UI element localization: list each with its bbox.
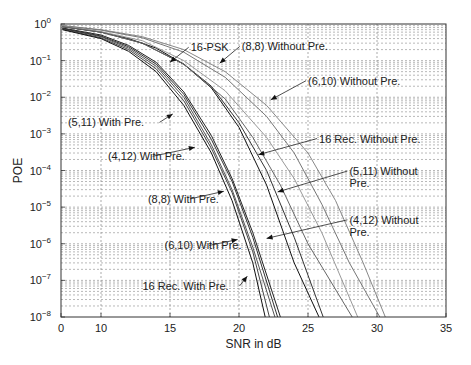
y-tick-label: 10−1	[30, 53, 52, 67]
series-line-8	[62, 28, 280, 317]
annotation-label: (8,8) Without Pre.	[242, 40, 328, 52]
annotation-label: 16-PSK	[191, 41, 230, 53]
x-tick-label: 25	[302, 322, 314, 334]
x-tick-label: 30	[371, 322, 383, 334]
series-line-4	[62, 26, 357, 317]
poe-vs-snr-chart: 16-PSK(8,8) Without Pre.(6,10) Without P…	[0, 0, 471, 365]
annotation-label: (4,12) Without	[349, 214, 418, 226]
annotation-arrowhead	[267, 235, 273, 240]
annotation-label: (4,12) With Pre.	[108, 150, 185, 162]
y-axis-ticks: 10010−110−210−310−410−510−610−710−8	[30, 16, 65, 323]
annotation-label: (8,8) With Pre.	[148, 193, 219, 205]
y-tick-label: 10−4	[30, 163, 52, 177]
y-tick-label: 10−5	[30, 199, 52, 213]
x-tick-label: 10	[95, 322, 107, 334]
annotation-label: 16 Rec. With Pre.	[142, 280, 228, 292]
series-line-3	[62, 27, 323, 317]
annotation-arrowhead	[166, 114, 172, 119]
x-tick-label: 20	[233, 322, 245, 334]
y-tick-label: 10−3	[30, 126, 52, 140]
annotation-label-line2: Pre.	[349, 226, 369, 238]
x-axis-title: SNR in dB	[225, 337, 281, 351]
y-tick-label: 10−7	[30, 272, 52, 286]
annotations: 16-PSK(8,8) Without Pre.(6,10) Without P…	[68, 40, 421, 291]
annotation-arrow-line	[278, 171, 348, 192]
annotation-arrowhead	[242, 276, 248, 282]
annotation-label: (5,11) Without	[349, 165, 417, 177]
x-axis-ticks: 0101520253035	[58, 313, 452, 334]
series-lines	[62, 26, 385, 317]
y-tick-label: 10−2	[30, 89, 52, 103]
annotation-arrow-line	[267, 220, 348, 239]
x-tick-label: 35	[440, 322, 452, 334]
annotation-label: (6,10) Without Pre.	[308, 75, 400, 87]
annotation-arrow-line	[271, 81, 306, 100]
y-tick-label: 10−8	[30, 309, 52, 323]
annotation-label: (5,11) With Pre.	[68, 116, 144, 128]
annotation-arrowhead	[278, 188, 284, 193]
series-line-5	[62, 27, 352, 317]
annotation-label: 16 Rec. Without Pre.	[319, 133, 421, 145]
y-tick-label: 10−6	[30, 236, 52, 250]
annotation-label-line2: Pre.	[349, 177, 369, 189]
x-tick-label: 15	[164, 322, 176, 334]
annotation-arrowhead	[258, 151, 264, 156]
y-axis-title: POE	[11, 158, 25, 183]
y-tick-label: 100	[34, 16, 51, 30]
annotation-label: (6,10) With Pre.	[164, 239, 241, 251]
x-tick-label: 0	[58, 322, 64, 334]
